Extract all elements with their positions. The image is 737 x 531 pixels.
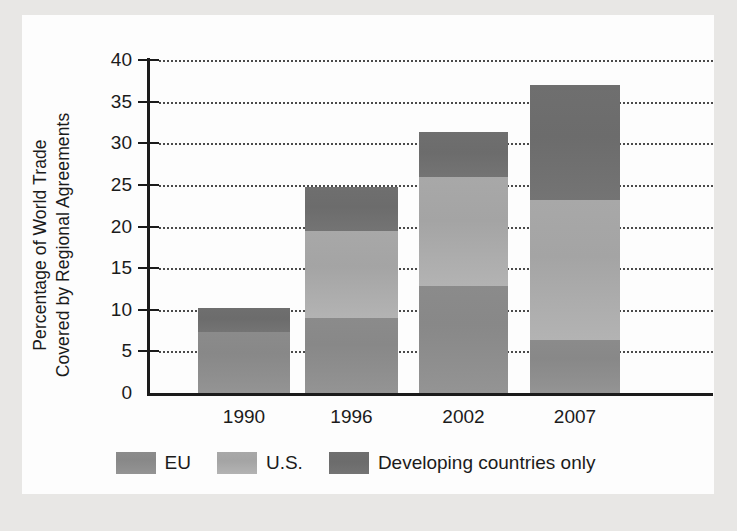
legend-item-u-s[interactable]: U.S. — [217, 452, 329, 474]
figure-container: Percentage of World Trade Covered by Reg… — [0, 0, 737, 531]
y-tick-label-15: 15 — [88, 258, 132, 277]
y-axis-line — [147, 58, 150, 396]
legend-swatch-dev — [329, 452, 369, 474]
y-tick-label-35: 35 — [88, 92, 132, 111]
x-tick-label-2002: 2002 — [409, 406, 519, 428]
y-tick-label-20: 20 — [88, 217, 132, 236]
bar-segment — [305, 231, 398, 318]
gridline-40 — [159, 60, 713, 62]
bar-segment — [419, 132, 508, 176]
chart-plot-area: Percentage of World Trade Covered by Reg… — [0, 0, 737, 531]
bar-segment — [530, 85, 620, 200]
y-tick-label-25: 25 — [88, 175, 132, 194]
y-tick-label-10: 10 — [88, 300, 132, 319]
legend-item-developing-countries-only[interactable]: Developing countries only — [329, 452, 622, 474]
bar-segment — [530, 200, 620, 340]
legend-label: EU — [165, 452, 191, 474]
bar-segment — [198, 332, 290, 393]
x-tick-label-1990: 1990 — [189, 406, 299, 428]
y-tick-label-5: 5 — [88, 341, 132, 360]
gridline-35 — [159, 102, 713, 104]
x-axis-line — [147, 393, 713, 396]
chart-legend: EUU.S.Developing countries only — [0, 452, 737, 474]
y-axis-title: Percentage of World Trade Covered by Reg… — [29, 65, 75, 425]
bar-segment — [419, 286, 508, 393]
legend-swatch-us — [217, 452, 257, 474]
legend-swatch-eu — [116, 452, 156, 474]
legend-label: Developing countries only — [378, 452, 596, 474]
y-tick-label-40: 40 — [88, 50, 132, 69]
x-tick-label-1996: 1996 — [297, 406, 407, 428]
bar-segment — [305, 318, 398, 393]
y-axis-title-line-1: Percentage of World Trade — [29, 65, 52, 425]
x-tick-label-2007: 2007 — [520, 406, 630, 428]
y-axis-title-line-2: Covered by Regional Agreements — [52, 65, 75, 425]
y-tick-label-30: 30 — [88, 133, 132, 152]
legend-label: U.S. — [266, 452, 303, 474]
y-tick-label-0: 0 — [88, 383, 132, 402]
bar-segment — [198, 308, 290, 332]
legend-item-eu[interactable]: EU — [116, 452, 217, 474]
bar-segment — [419, 177, 508, 287]
bar-segment — [530, 340, 620, 393]
bar-segment — [305, 187, 398, 231]
